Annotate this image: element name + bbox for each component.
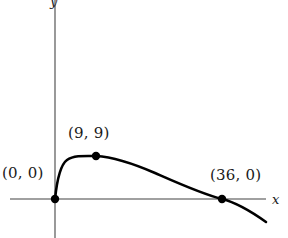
y-axis-label: y [50,0,57,9]
x-intercept-point [218,195,226,203]
peak-point [92,152,100,160]
plot-svg [0,0,288,238]
origin-point [51,195,59,203]
x-axis-label: x [272,192,279,207]
x-intercept-label: (36, 0) [210,166,261,184]
origin-label: (0, 0) [2,164,44,182]
peak-label: (9, 9) [68,124,110,142]
figure-canvas: (0, 0) (9, 9) (36, 0) x y [0,0,288,238]
